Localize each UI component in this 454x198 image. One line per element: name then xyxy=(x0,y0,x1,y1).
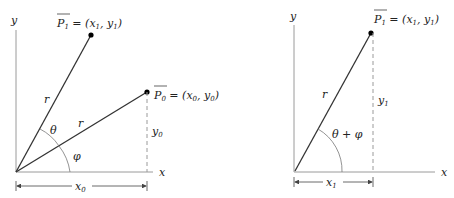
rotation-diagrams: y x r r θ φ y0 x0 P1 = (x1, y1) P0 = (x0… xyxy=(0,0,454,198)
phi-label: φ xyxy=(73,150,81,163)
y-axis-label: y xyxy=(289,10,297,23)
point-p1-label: P1 = (x1, y1) xyxy=(56,17,122,31)
r-label: r xyxy=(322,88,328,101)
theta-label: θ xyxy=(50,124,57,137)
y-axis-label: y xyxy=(10,14,18,27)
vector-p0 xyxy=(16,92,147,172)
point-p1-label: P1 = (x1, y1) xyxy=(373,13,439,27)
r-label-p1: r xyxy=(44,93,50,106)
point-p1-dot xyxy=(88,32,93,37)
r-label-p0: r xyxy=(78,117,84,130)
y1-label: y1 xyxy=(377,94,389,108)
y0-label: y0 xyxy=(151,125,163,139)
angle-label: θ + φ xyxy=(332,128,363,141)
x-axis-label: x xyxy=(441,166,448,179)
x-axis-label: x xyxy=(159,166,166,179)
phi-arc xyxy=(59,146,70,172)
left-diagram: y x r r θ φ y0 x0 P1 = (x1, y1) P0 = (x0… xyxy=(10,14,219,194)
vector-p1 xyxy=(295,33,371,171)
right-diagram: y x r θ + φ y1 x1 P1 = (x1, y1) xyxy=(289,10,448,190)
point-p0-label: P0 = (x0, y0) xyxy=(153,89,219,103)
